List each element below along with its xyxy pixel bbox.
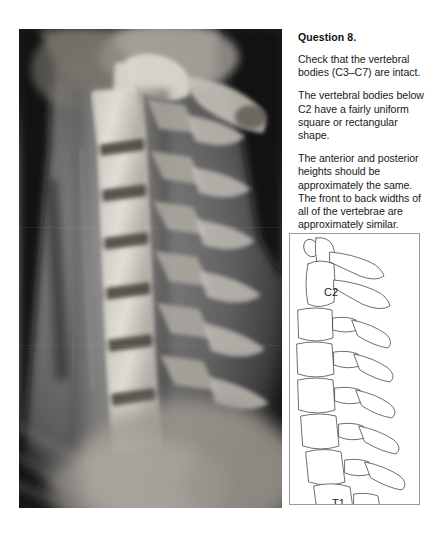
c7-body	[306, 450, 345, 486]
cervical-spine-line-diagram: C2 T1	[289, 233, 420, 505]
c5-spinous-process	[356, 390, 395, 418]
c3-body	[298, 308, 333, 341]
t1-pedicle	[354, 493, 380, 504]
xray-render	[19, 29, 282, 508]
label-c2: C2	[324, 286, 338, 298]
c4-spinous-process	[354, 354, 393, 382]
c4-body	[297, 342, 334, 377]
c6-spinous-process	[359, 426, 399, 454]
figure-page: Question 8. Check that the vertebral bod…	[0, 0, 444, 533]
question-paragraph-1: Check that the vertebral bodies (C3–C7) …	[298, 53, 424, 79]
c7-spinous-process	[365, 462, 405, 490]
label-t1: T1	[332, 497, 345, 504]
question-paragraph-3: The anterior and posterior heights shoul…	[298, 152, 424, 231]
c3-spinous-process	[352, 320, 391, 348]
question-paragraph-2: The vertebral bodies below C2 have a fai…	[298, 89, 424, 142]
c6-body	[301, 414, 339, 449]
question-text-column: Question 8. Check that the vertebral bod…	[298, 31, 424, 241]
lateral-cervical-spine-radiograph	[19, 29, 282, 508]
c2-body	[306, 261, 335, 307]
question-heading: Question 8.	[298, 31, 424, 44]
c2-spinous-process	[334, 280, 390, 309]
cervical-spine-drawing: C2 T1	[290, 234, 419, 504]
c5-body	[298, 378, 335, 413]
c1-posterior-arch	[330, 252, 384, 279]
